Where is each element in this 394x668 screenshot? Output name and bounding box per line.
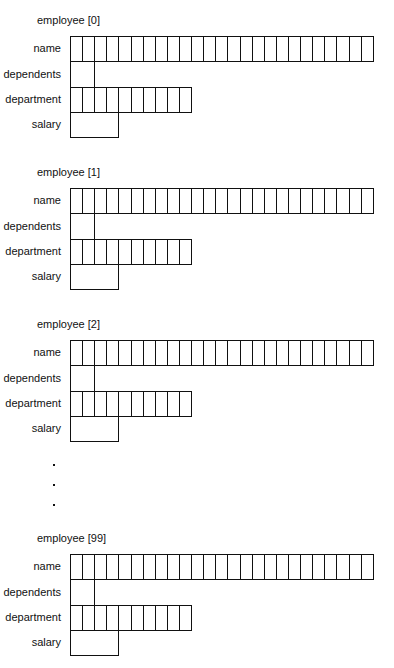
char-cell	[289, 189, 301, 213]
char-cell	[95, 392, 107, 416]
char-cell	[168, 392, 180, 416]
char-cell	[119, 240, 131, 264]
department-field-cells	[70, 87, 192, 113]
char-cell	[253, 189, 265, 213]
department-field-cells	[70, 391, 192, 417]
char-cell	[107, 555, 119, 579]
char-cell	[71, 189, 83, 213]
char-cell	[144, 392, 156, 416]
char-cell	[95, 606, 107, 630]
char-cell	[337, 37, 349, 61]
dependents-field-box	[70, 579, 95, 606]
char-cell	[95, 37, 107, 61]
char-cell	[265, 341, 277, 365]
char-cell	[277, 555, 289, 579]
char-cell	[180, 392, 192, 416]
char-cell	[204, 37, 216, 61]
char-cell	[216, 341, 228, 365]
char-cell	[362, 555, 374, 579]
char-cell	[144, 88, 156, 112]
char-cell	[119, 555, 131, 579]
char-cell	[107, 189, 119, 213]
char-cell	[144, 555, 156, 579]
employee-record: employee [99]namedependentsdepartmentsal…	[0, 532, 394, 662]
field-label-name: name	[33, 560, 61, 573]
char-cell	[156, 37, 168, 61]
ellipsis-dot	[53, 504, 55, 506]
char-cell	[337, 555, 349, 579]
char-cell	[362, 189, 374, 213]
char-cell	[119, 392, 131, 416]
char-cell	[156, 240, 168, 264]
char-cell	[180, 240, 192, 264]
char-cell	[83, 37, 95, 61]
char-cell	[192, 189, 204, 213]
char-cell	[204, 189, 216, 213]
char-cell	[107, 606, 119, 630]
field-label-dependents: dependents	[4, 220, 62, 233]
char-cell	[132, 37, 144, 61]
char-cell	[168, 341, 180, 365]
char-cell	[107, 240, 119, 264]
department-field-cells	[70, 605, 192, 631]
char-cell	[156, 341, 168, 365]
employee-record: employee [2]namedependentsdepartmentsala…	[0, 318, 394, 448]
field-label-name: name	[33, 346, 61, 359]
char-cell	[253, 341, 265, 365]
char-cell	[132, 392, 144, 416]
char-cell	[180, 555, 192, 579]
char-cell	[71, 37, 83, 61]
char-cell	[228, 341, 240, 365]
char-cell	[216, 555, 228, 579]
name-field-cells	[70, 340, 374, 366]
char-cell	[192, 341, 204, 365]
char-cell	[325, 189, 337, 213]
field-label-dependents: dependents	[4, 372, 62, 385]
char-cell	[168, 88, 180, 112]
char-cell	[119, 189, 131, 213]
char-cell	[83, 606, 95, 630]
field-label-salary: salary	[32, 422, 61, 435]
char-cell	[180, 37, 192, 61]
dependents-field-box	[70, 61, 95, 88]
char-cell	[132, 189, 144, 213]
field-label-salary: salary	[32, 270, 61, 283]
char-cell	[71, 240, 83, 264]
char-cell	[107, 37, 119, 61]
char-cell	[83, 392, 95, 416]
char-cell	[132, 240, 144, 264]
char-cell	[180, 606, 192, 630]
char-cell	[265, 189, 277, 213]
field-label-department: department	[5, 611, 61, 624]
char-cell	[156, 189, 168, 213]
char-cell	[83, 555, 95, 579]
char-cell	[83, 341, 95, 365]
char-cell	[301, 555, 313, 579]
char-cell	[350, 37, 362, 61]
char-cell	[71, 88, 83, 112]
char-cell	[301, 37, 313, 61]
name-field-cells	[70, 188, 374, 214]
char-cell	[119, 341, 131, 365]
salary-field-box	[70, 630, 119, 656]
char-cell	[350, 341, 362, 365]
char-cell	[216, 189, 228, 213]
field-label-department: department	[5, 93, 61, 106]
name-field-cells	[70, 36, 374, 62]
salary-field-box	[70, 112, 119, 138]
char-cell	[228, 555, 240, 579]
char-cell	[253, 555, 265, 579]
char-cell	[71, 392, 83, 416]
salary-field-box	[70, 264, 119, 290]
char-cell	[241, 189, 253, 213]
char-cell	[192, 37, 204, 61]
field-label-salary: salary	[32, 118, 61, 131]
ellipsis-dot	[53, 464, 55, 466]
record-title: employee [0]	[37, 14, 100, 27]
employee-record: employee [0]namedependentsdepartmentsala…	[0, 14, 394, 144]
record-title: employee [2]	[37, 318, 100, 331]
char-cell	[362, 341, 374, 365]
char-cell	[241, 555, 253, 579]
char-cell	[83, 240, 95, 264]
char-cell	[313, 555, 325, 579]
